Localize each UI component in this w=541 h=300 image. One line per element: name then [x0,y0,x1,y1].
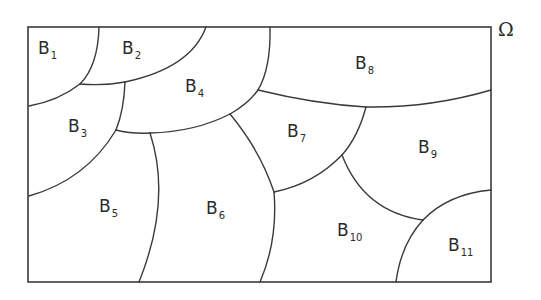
boundary-b2-b3 [80,82,125,85]
partition-diagram [0,0,541,300]
boundary-b4-b6 [150,114,230,133]
region-label-b2: B2 [122,40,141,57]
boundary-b10-b11 [396,220,423,282]
region-label-b10: B10 [337,222,362,239]
region-label-b5: B5 [99,198,118,215]
boundary-b1-b3 [29,84,80,106]
boundary-b3-b5 [29,130,116,196]
region-label-b1: B1 [38,40,57,57]
region-label-b3: B3 [68,118,87,135]
region-label-b7: B7 [287,123,306,140]
region-label-b8: B8 [355,55,374,72]
boundary-b6-b7 [230,114,274,192]
boundary-b4-b8 [258,27,270,90]
boundary-b1-b2 [80,27,99,84]
boundary-b9-b11 [423,190,491,220]
boundary-b7-b10 [274,155,342,192]
boundary-b4-b7 [230,90,258,114]
boundary-b9-b10 [342,155,423,220]
boundary-b5-b6 [139,133,159,282]
boundary-b3-b4 [116,82,125,130]
boundary-b7-b9 [342,107,366,155]
region-label-b11: B11 [448,237,473,254]
boundary-b4-b5 [116,130,150,133]
boundary-b7-b8 [258,90,366,107]
region-label-b9: B9 [418,139,437,156]
region-label-b6: B6 [206,200,225,217]
boundary-b8-b9 [366,90,491,107]
region-label-b4: B4 [185,78,204,95]
boundary-b6-b10 [260,192,275,282]
domain-symbol-omega: Ω [498,18,514,40]
